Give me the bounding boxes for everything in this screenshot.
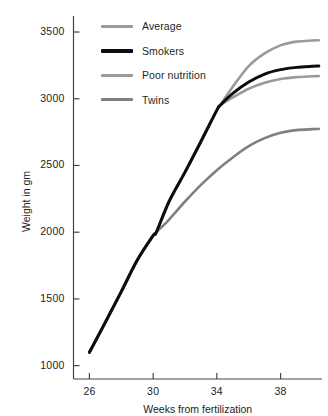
legend-label-average: Average	[142, 20, 182, 32]
legend-swatch-twins	[101, 98, 133, 101]
legend-label-twins: Twins	[142, 94, 169, 106]
series-line-poor-nutrition	[89, 76, 318, 352]
x-tick-label: 30	[133, 385, 173, 397]
x-axis-title: Weeks from fertilization	[74, 403, 323, 415]
y-tick-label: 3000	[0, 92, 65, 104]
y-tick-label: 2500	[0, 158, 65, 170]
legend-label-smokers: Smokers	[142, 45, 184, 57]
series-line-twins	[89, 129, 318, 352]
legend-item-average[interactable]: Average	[101, 14, 251, 39]
chart-legend: Average Smokers Poor nutrition Twins	[101, 14, 251, 112]
x-tick-label: 34	[197, 385, 237, 397]
y-axis-title: Weight in gm	[20, 170, 32, 231]
y-tick-label: 3500	[0, 25, 65, 37]
y-tick-label: 2000	[0, 225, 65, 237]
x-tick-label: 26	[69, 385, 109, 397]
legend-swatch-poor-nutrition	[101, 74, 133, 77]
legend-swatch-smokers	[101, 49, 133, 53]
legend-swatch-average	[101, 25, 133, 28]
x-tick-label: 38	[261, 385, 301, 397]
y-tick-label: 1500	[0, 292, 65, 304]
chart-figure: Average Smokers Poor nutrition Twins 100…	[0, 0, 328, 416]
legend-label-poor-nutrition: Poor nutrition	[142, 69, 206, 81]
legend-item-smokers[interactable]: Smokers	[101, 39, 251, 64]
legend-item-twins[interactable]: Twins	[101, 88, 251, 113]
legend-item-poor-nutrition[interactable]: Poor nutrition	[101, 63, 251, 88]
y-tick-label: 1000	[0, 359, 65, 371]
